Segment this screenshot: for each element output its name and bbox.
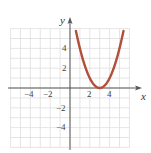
- x-tick-label: 4: [107, 89, 112, 99]
- x-tick-label: −2: [43, 89, 53, 99]
- parabola-chart: x y −4 −2 2 4 4 2 −2 −4: [0, 0, 151, 153]
- x-tick-label: 2: [87, 89, 92, 99]
- y-axis-label: y: [59, 14, 65, 26]
- y-tick-label: 4: [62, 43, 67, 53]
- y-tick-label: 2: [62, 63, 67, 73]
- y-tick-label: −4: [56, 122, 66, 132]
- y-tick-label: −2: [56, 103, 66, 113]
- x-tick-label: −4: [24, 89, 34, 99]
- x-axis-label: x: [140, 90, 146, 102]
